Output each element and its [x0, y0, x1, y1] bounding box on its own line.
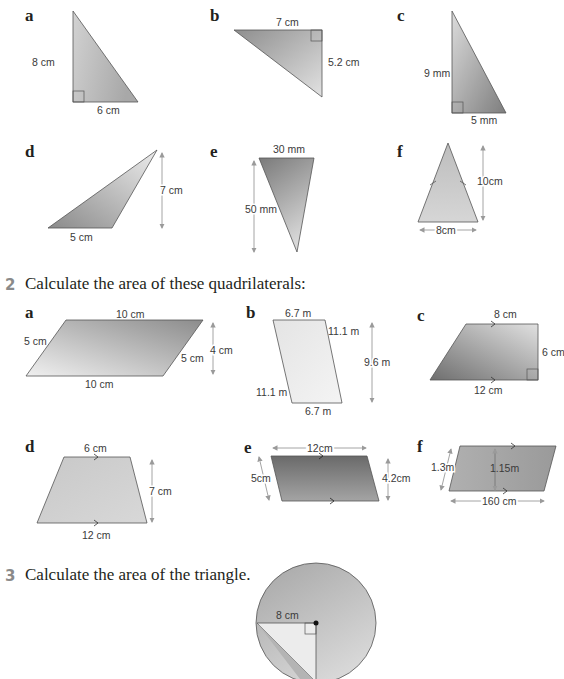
parallelogram-e: 12cm 5cm 4.2cm: [251, 442, 411, 504]
label-height: 9 mm: [424, 67, 451, 79]
item-letter-b: b: [210, 6, 219, 26]
label-height: 8 cm: [32, 56, 55, 68]
label-base: 6 cm: [97, 104, 120, 116]
item-letter-c: c: [397, 6, 405, 26]
centre-point: [314, 621, 319, 626]
label-bottom: 6.7 m: [305, 405, 332, 417]
trapezium-c: 8 cm 6 cm 12 cm: [430, 308, 564, 396]
item-letter-a: a: [25, 303, 34, 323]
label-right: 6 cm: [542, 346, 564, 358]
label-top: 6 cm: [84, 442, 107, 454]
label-height: 7 cm: [149, 485, 172, 497]
triangle-d: 7 cm 5 cm: [48, 150, 183, 243]
label-bottom: 12 cm: [474, 384, 503, 396]
label-bottom: 10 cm: [85, 378, 114, 390]
label-height: 1.15m: [490, 462, 519, 474]
label-height: 4 cm: [210, 344, 233, 356]
item-letter-b: b: [246, 303, 255, 323]
item-letter-a: a: [25, 6, 34, 26]
circle-triangle-figure: 8 cm: [256, 563, 376, 679]
question-2-text: Calculate the area of these quadrilatera…: [25, 274, 306, 294]
label-top: 6.7 m: [285, 307, 312, 319]
parallelogram-f: 1.3m 1.15m 160 cm: [431, 443, 556, 507]
triangle-e: 50 mm 30 mm: [245, 143, 314, 252]
item-letter-d: d: [25, 437, 34, 457]
label-bottom: 12 cm: [82, 529, 111, 541]
label-right: 5 cm: [181, 352, 204, 364]
label-top: 12cm: [307, 442, 333, 454]
label-top: 7 cm: [276, 16, 299, 28]
label-height: 4.2cm: [382, 472, 411, 484]
triangle-b: 7 cm 5.2 cm: [234, 16, 360, 97]
label-top: 30 mm: [273, 143, 305, 155]
label-left: 5 cm: [24, 335, 47, 347]
trapezium-d: 6 cm 7 cm 12 cm: [37, 442, 172, 541]
label-height: 7 cm: [160, 184, 183, 196]
label-base: 5 mm: [471, 114, 498, 126]
triangle-c: 9 mm 5 mm: [424, 11, 506, 126]
label-radius: 8 cm: [276, 609, 299, 621]
item-letter-c: c: [417, 306, 425, 326]
item-letter-f: f: [417, 437, 423, 457]
question-3-text: Calculate the area of the triangle.: [25, 565, 251, 585]
label-base: 5 cm: [70, 231, 93, 243]
label-side: 5.2 cm: [328, 56, 360, 68]
label-height: 9.6 m: [364, 356, 391, 368]
label-height: 50 mm: [245, 203, 277, 215]
triangle-a: 8 cm 6 cm: [32, 11, 138, 116]
label-left: 1.3m: [431, 461, 455, 473]
question-number-3: 3: [5, 567, 15, 585]
question-number-2: 2: [5, 276, 15, 294]
label-bottom: 160 cm: [482, 495, 517, 507]
label-top: 10 cm: [116, 308, 145, 320]
item-letter-d: d: [25, 142, 34, 162]
label-top: 8 cm: [494, 308, 517, 320]
parallelogram-a: 10 cm 5 cm 5 cm 4 cm 10 cm: [24, 308, 233, 390]
label-height: 10cm: [477, 175, 503, 187]
parallelogram-b: 6.7 m 11.1 m 11.1 m 6.7 m 9.6 m: [256, 307, 391, 417]
label-left: 11.1 m: [256, 386, 288, 398]
item-letter-f: f: [397, 142, 403, 162]
item-letter-e: e: [210, 142, 218, 162]
label-right: 11.1 m: [328, 325, 360, 337]
label-base: 8cm: [436, 224, 456, 236]
label-left: 5cm: [251, 472, 271, 484]
triangle-f: 10cm 8cm: [418, 143, 503, 236]
item-letter-e: e: [244, 438, 252, 458]
